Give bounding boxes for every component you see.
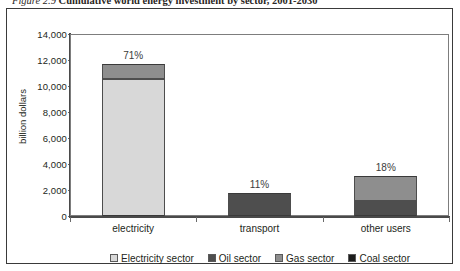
- legend-swatch-icon: [275, 254, 283, 262]
- bar-value-label: 71%: [103, 50, 163, 61]
- legend-item[interactable]: Gas sector: [275, 253, 334, 264]
- bar-segment[interactable]: [102, 80, 165, 216]
- y-tick-label: 2,000: [15, 185, 67, 196]
- figure-number: Figure 2.9: [12, 0, 56, 6]
- y-tick-label: 14,000: [15, 29, 67, 40]
- x-tick-label: other users: [331, 223, 441, 234]
- y-tick-label: 8,000: [15, 107, 67, 118]
- legend-label: Electricity sector: [121, 253, 194, 264]
- legend-swatch-icon: [208, 254, 216, 262]
- figure-caption: Figure 2.9 Cumulative world energy inves…: [12, 0, 452, 7]
- chart-legend: Electricity sectorOil sectorGas sectorCo…: [70, 250, 450, 266]
- x-axis-line: [69, 216, 450, 218]
- legend-swatch-icon: [348, 254, 356, 262]
- bar-segment[interactable]: [228, 193, 291, 216]
- bar-segment[interactable]: [354, 200, 417, 216]
- y-tick-label: 10,000: [15, 81, 67, 92]
- bar-segment[interactable]: [354, 176, 417, 199]
- y-tick-label: 12,000: [15, 55, 67, 66]
- legend-item[interactable]: Oil sector: [208, 253, 261, 264]
- y-tick-label: 0: [15, 211, 67, 222]
- y-axis-tick-labels: 02,0004,0006,0008,00010,00012,00014,000: [11, 9, 67, 271]
- bar-segment[interactable]: [102, 65, 165, 77]
- x-tick-mark: [323, 217, 324, 222]
- legend-label: Coal sector: [359, 253, 410, 264]
- chart-frame: billion dollars 02,0004,0006,0008,00010,…: [6, 8, 453, 264]
- x-tick-mark: [449, 217, 450, 222]
- y-tick-label: 6,000: [15, 133, 67, 144]
- legend-label: Gas sector: [286, 253, 334, 264]
- bar-electricity[interactable]: 71%: [102, 34, 165, 216]
- legend-item[interactable]: Electricity sector: [110, 253, 194, 264]
- x-tick-mark: [70, 217, 71, 222]
- y-tick-label: 4,000: [15, 159, 67, 170]
- x-tick-label: electricity: [78, 223, 188, 234]
- legend-item[interactable]: Coal sector: [348, 253, 410, 264]
- figure-title: Cumulative world energy investment by se…: [59, 0, 318, 6]
- legend-label: Oil sector: [219, 253, 261, 264]
- bar-other-users[interactable]: 18%: [354, 34, 417, 216]
- x-tick-label: transport: [205, 223, 315, 234]
- legend-swatch-icon: [110, 254, 118, 262]
- x-tick-mark: [196, 217, 197, 222]
- bar-value-label: 11%: [230, 179, 290, 190]
- bar-transport[interactable]: 11%: [228, 34, 291, 216]
- bar-segment[interactable]: [102, 78, 165, 80]
- bar-value-label: 18%: [356, 162, 416, 173]
- bar-segment[interactable]: [102, 64, 165, 66]
